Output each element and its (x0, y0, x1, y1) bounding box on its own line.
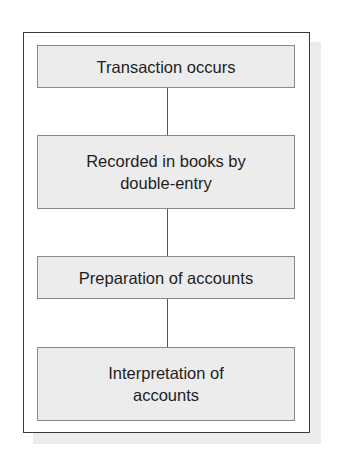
step-interpretation-of-accounts: Interpretation of accounts (37, 347, 295, 421)
step-preparation-of-accounts: Preparation of accounts (37, 256, 295, 299)
connector-3-4 (167, 298, 168, 347)
step-label: Interpretation of accounts (86, 362, 246, 406)
step-label: Preparation of accounts (79, 267, 253, 289)
step-recorded-in-books: Recorded in books by double-entry (37, 135, 295, 209)
step-label: Transaction occurs (97, 56, 236, 78)
step-transaction-occurs: Transaction occurs (37, 45, 295, 88)
connector-1-2 (167, 87, 168, 135)
connector-2-3 (167, 208, 168, 256)
step-label: Recorded in books by double-entry (71, 150, 261, 194)
